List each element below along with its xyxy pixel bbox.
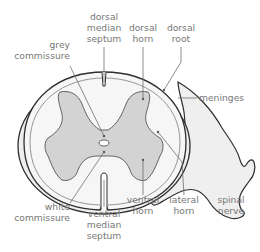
label-meninges: meninges <box>199 92 244 103</box>
svg-text:septum: septum <box>87 33 122 44</box>
svg-text:median: median <box>87 219 122 230</box>
svg-text:septum: septum <box>87 230 122 241</box>
svg-text:lateral: lateral <box>169 194 198 205</box>
svg-text:nerve: nerve <box>218 205 245 216</box>
central-canal <box>99 140 109 146</box>
svg-text:spinal: spinal <box>217 194 244 205</box>
label-dorsal-horn: dorsal horn <box>129 22 157 44</box>
label-dorsal-root: dorsal root <box>167 22 195 44</box>
svg-text:horn: horn <box>133 33 154 44</box>
svg-text:ventral: ventral <box>88 208 120 219</box>
spinal-cord-diagram: dorsal median septum grey commissure dor… <box>0 0 260 252</box>
svg-text:root: root <box>172 33 191 44</box>
label-white-commissure: white commissure <box>14 201 70 223</box>
svg-text:commissure: commissure <box>14 212 70 223</box>
svg-text:meninges: meninges <box>199 92 244 103</box>
svg-text:white: white <box>45 201 70 212</box>
svg-text:ventral: ventral <box>127 194 159 205</box>
label-ventral-median-septum: ventral median septum <box>87 208 122 241</box>
svg-text:commissure: commissure <box>14 50 70 61</box>
label-grey-commissure: grey commissure <box>14 39 70 61</box>
svg-text:dorsal: dorsal <box>167 22 195 33</box>
svg-text:grey: grey <box>50 39 71 50</box>
svg-text:dorsal: dorsal <box>129 22 157 33</box>
label-dorsal-median-septum: dorsal median septum <box>87 11 122 44</box>
svg-text:horn: horn <box>133 205 154 216</box>
svg-text:dorsal: dorsal <box>90 11 118 22</box>
label-spinal-nerve: spinal nerve <box>217 194 244 216</box>
svg-text:median: median <box>87 22 122 33</box>
label-lateral-horn: lateral horn <box>169 194 198 216</box>
svg-text:horn: horn <box>174 205 195 216</box>
